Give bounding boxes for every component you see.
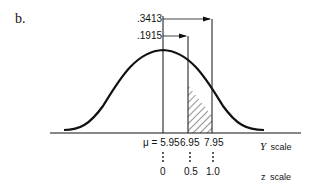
shaded-area <box>188 85 212 133</box>
z-scale-label: z scale <box>261 167 291 183</box>
prob-label-3413: .3413 <box>137 14 162 24</box>
normal-curve-diagram <box>0 0 317 186</box>
y-tick-7-95: 7.95 <box>204 138 223 148</box>
z-tick-0-5: 0.5 <box>184 167 198 177</box>
z-tick-0: 0 <box>160 167 166 177</box>
y-scale-var: Y <box>260 140 266 152</box>
bell-curve <box>64 50 264 130</box>
mu-label: μ = 5.95 <box>143 138 180 148</box>
y-scale-word: scale <box>271 142 292 152</box>
arrowhead-1915-icon <box>179 34 187 39</box>
z-tick-1-0: 1.0 <box>206 167 220 177</box>
dotted-links <box>162 152 214 162</box>
y-scale-label: Y scale <box>260 137 292 153</box>
z-scale-word: scale <box>270 172 291 182</box>
arrowhead-3413-icon <box>203 17 211 22</box>
z-scale-var: z <box>261 172 266 182</box>
y-tick-6-95: 6.95 <box>180 138 199 148</box>
prob-label-1915: .1915 <box>137 31 162 41</box>
